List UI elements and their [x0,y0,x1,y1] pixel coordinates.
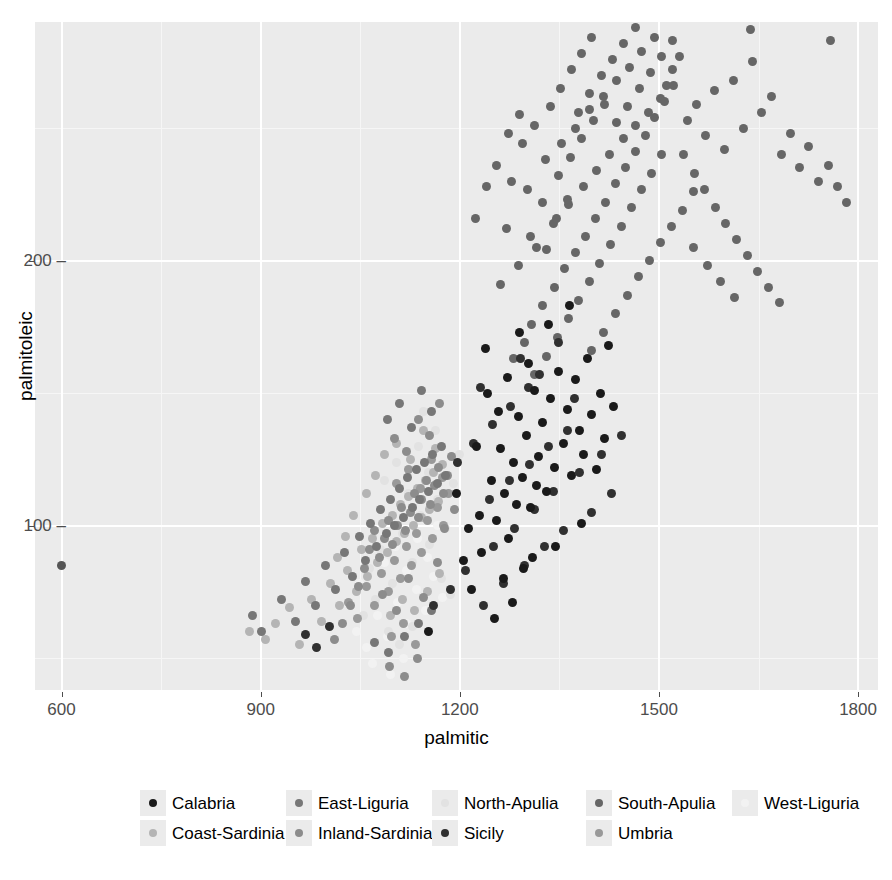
data-point [383,415,392,424]
data-point [525,460,534,469]
data-point [461,566,470,575]
legend-key-north-apulia[interactable] [432,790,458,816]
legend-key-coast-sardinia[interactable] [140,820,166,846]
data-point [330,635,339,644]
data-point [348,572,357,581]
gridline-major-vertical [61,22,63,690]
data-point [668,65,677,74]
data-point [425,431,434,440]
data-point [271,619,280,628]
data-point [612,118,621,127]
data-point [485,495,494,504]
data-point [575,426,584,435]
data-point [402,542,411,551]
data-point [611,179,620,188]
data-point [390,556,399,565]
data-point [331,585,340,594]
legend-label: North-Apulia [464,794,559,814]
data-point [679,150,688,159]
data-point [411,640,420,649]
data-point [563,405,572,414]
data-point [581,232,590,241]
data-point [711,203,720,212]
data-point [824,161,833,170]
legend-dot-icon [741,799,749,807]
x-tick-mark [659,692,660,697]
gridline-major-vertical [658,22,660,690]
data-point [767,92,776,101]
data-point [362,489,371,498]
data-point [387,632,396,641]
legend-key-south-apulia[interactable] [586,790,612,816]
gridline-minor-vertical [759,22,760,690]
x-tick-label: 1500 [624,700,694,720]
data-point [403,473,412,482]
data-point [577,519,586,528]
data-point [710,86,719,95]
data-point [475,511,484,520]
data-point [842,198,851,207]
data-point [338,619,347,628]
gridline-major-horizontal [35,260,878,262]
legend-label: Calabria [172,794,235,814]
data-point [380,476,389,485]
data-point [453,458,462,467]
legend-key-umbria[interactable] [586,820,612,846]
y-tick-label: 200 – [0,251,66,271]
data-point [414,415,423,424]
x-tick-label: 1200 [425,700,495,720]
data-point [579,182,588,191]
legend-key-calabria[interactable] [140,790,166,816]
legend-dot-icon [149,829,157,837]
data-point [675,52,684,61]
data-point [412,585,421,594]
data-point [383,548,392,557]
data-point [701,131,710,140]
legend-key-west-liguria[interactable] [732,790,758,816]
data-point [399,654,408,663]
data-point [716,277,725,286]
data-point [428,450,437,459]
data-point [399,513,408,522]
data-point [397,503,406,512]
data-point [291,617,300,626]
legend-key-inland-sardinia[interactable] [286,820,312,846]
data-point [689,187,698,196]
data-point [464,524,473,533]
data-point [669,81,678,90]
data-point [370,526,379,535]
data-point [512,500,521,509]
data-point [362,582,371,591]
data-point [826,36,835,45]
data-point [604,341,613,350]
legend-key-east-liguria[interactable] [286,790,312,816]
data-point [563,426,572,435]
data-point [496,280,505,289]
data-point [518,473,527,482]
data-point [424,487,433,496]
legend-label: Umbria [618,824,673,844]
data-point [479,601,488,610]
data-point [395,484,404,493]
data-point [373,611,382,620]
data-point [477,548,486,557]
data-point [496,444,505,453]
data-point [392,606,401,615]
data-point [261,635,270,644]
data-point [683,116,692,125]
data-point [570,394,579,403]
data-point [471,214,480,223]
data-point [375,553,384,562]
data-point [400,632,409,641]
legend-dot-icon [295,799,303,807]
data-point [530,386,539,395]
data-point [657,150,666,159]
data-point [441,471,450,480]
data-point [506,402,515,411]
data-point [647,169,656,178]
data-point [412,465,421,474]
data-point [574,296,583,305]
data-point [439,489,448,498]
y-tick-label: 100 – [0,516,66,536]
legend-key-sicily[interactable] [432,820,458,846]
